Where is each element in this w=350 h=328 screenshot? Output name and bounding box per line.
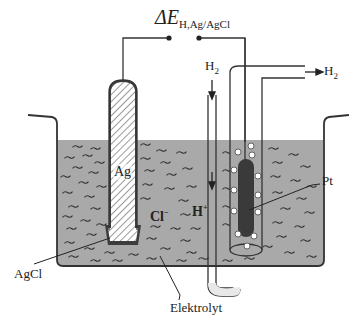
hydrogen-ion-label: H+ bbox=[192, 203, 207, 220]
terminal-right bbox=[196, 35, 201, 40]
electrochemical-cell-diagram: ΔEH,Ag/AgCl H2 H2 Ag Pt AgCl Cl− H+ Elek… bbox=[0, 0, 350, 328]
delta-e-subscript: H,Ag/AgCl bbox=[179, 18, 230, 30]
potential-difference-label: ΔEH,Ag/AgCl bbox=[155, 6, 230, 30]
silver-chloride-label: AgCl bbox=[14, 266, 42, 282]
h2-inlet-label: H2 bbox=[205, 58, 219, 76]
h2-outlet-label: H2 bbox=[324, 63, 338, 81]
electrolyte-label: Elektrolyt bbox=[170, 300, 222, 316]
delta-e-symbol: ΔE bbox=[155, 6, 179, 28]
platinum-electrode bbox=[238, 159, 254, 237]
terminal-left bbox=[166, 35, 171, 40]
platinum-label: Pt bbox=[322, 173, 333, 189]
silver-electrode bbox=[105, 80, 141, 245]
chloride-ion-label: Cl− bbox=[150, 208, 169, 225]
electrolyte-liquid bbox=[57, 140, 324, 266]
silver-label: Ag bbox=[113, 164, 132, 180]
measurement-wires bbox=[123, 38, 245, 142]
